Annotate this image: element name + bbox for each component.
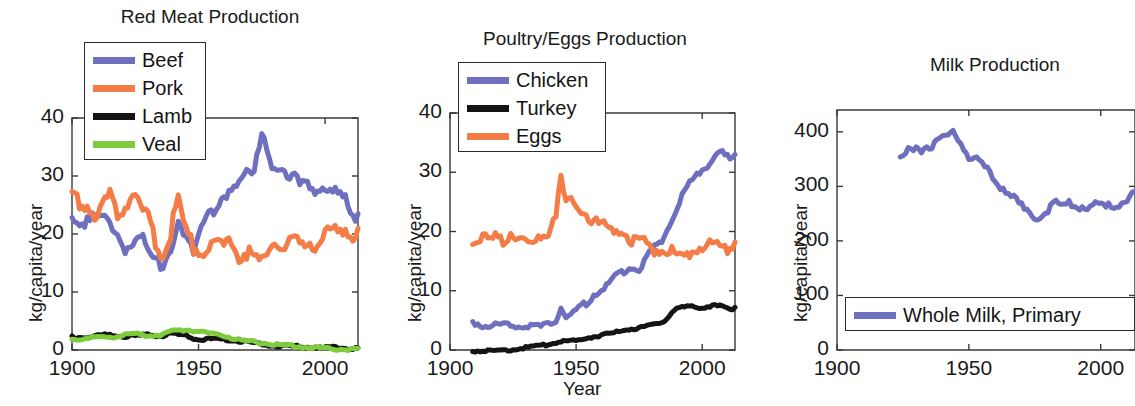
legend-label: Lamb xyxy=(142,106,192,126)
legend-milk[interactable]: Whole Milk, Primary xyxy=(845,297,1135,331)
legend-color-swatch xyxy=(467,105,509,112)
legend-item[interactable]: Beef xyxy=(85,46,205,74)
legend-item[interactable]: Lamb xyxy=(85,102,205,130)
legend-poultry-eggs[interactable]: ChickenTurkeyEggs xyxy=(458,62,606,152)
legend-item[interactable]: Turkey xyxy=(459,94,605,122)
x-tick-label: 2000 xyxy=(1069,356,1133,380)
legend-label: Eggs xyxy=(516,126,562,146)
legend-color-swatch xyxy=(93,141,135,148)
x-tick-label: 1900 xyxy=(805,356,869,380)
y-tick-label: 200 xyxy=(775,227,829,251)
x-tick-label: 1950 xyxy=(937,356,1001,380)
series-line-whole-milk-primary xyxy=(900,130,1135,220)
legend-item[interactable]: Eggs xyxy=(459,122,605,150)
legend-item[interactable]: Veal xyxy=(85,130,205,158)
legend-label: Turkey xyxy=(516,98,576,118)
legend-item[interactable]: Whole Milk, Primary xyxy=(846,301,1134,329)
legend-label: Beef xyxy=(142,50,183,70)
legend-color-swatch xyxy=(93,57,135,64)
y-tick-label: 400 xyxy=(775,118,829,142)
legend-item[interactable]: Pork xyxy=(85,74,205,102)
legend-label: Whole Milk, Primary xyxy=(903,305,1081,325)
legend-label: Chicken xyxy=(516,70,588,90)
legend-color-swatch xyxy=(93,85,135,92)
legend-color-swatch xyxy=(93,113,135,120)
legend-color-swatch xyxy=(467,133,509,140)
legend-label: Pork xyxy=(142,78,183,98)
legend-color-swatch xyxy=(854,312,896,319)
legend-color-swatch xyxy=(467,77,509,84)
legend-item[interactable]: Chicken xyxy=(459,66,605,94)
y-tick-label: 300 xyxy=(775,172,829,196)
y-tick-label: 100 xyxy=(775,281,829,305)
legend-label: Veal xyxy=(142,134,181,154)
legend-red-meat[interactable]: BeefPorkLambVeal xyxy=(84,42,206,160)
